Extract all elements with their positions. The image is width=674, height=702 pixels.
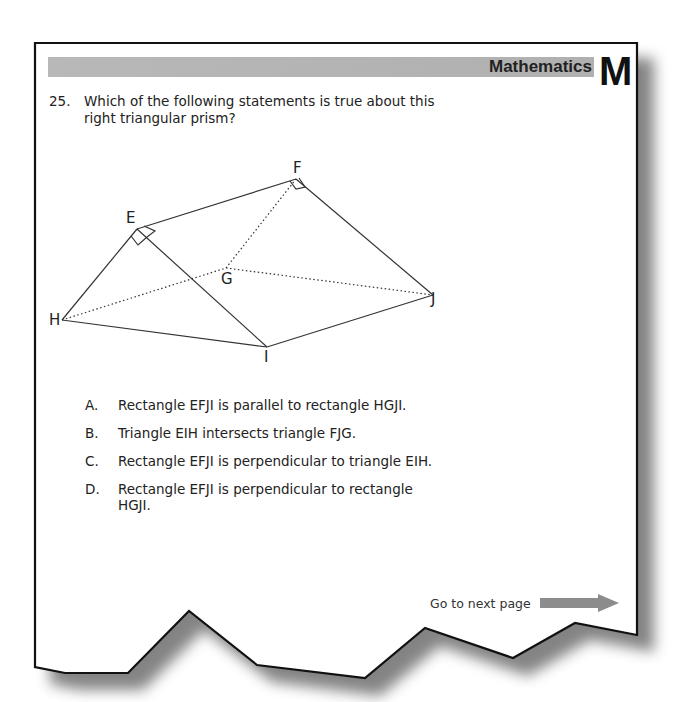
go-to-next-page-link[interactable]: Go to next page [430,596,531,611]
vertex-label-I: I [264,348,268,366]
option-a-letter: A. [85,397,98,413]
option-b-text: Triangle EIH intersects triangle FJG. [118,425,356,441]
section-letter: M [599,51,632,91]
worksheet-page: Mathematics M 25. Which of the following… [0,0,674,702]
vertex-label-J: J [431,290,435,308]
option-d-text-line-2: HGJI. [118,497,151,513]
vertex-label-G: G [221,270,233,288]
vertex-label-H: H [49,311,60,329]
option-d-letter: D. [85,481,100,497]
question-number: 25. [49,93,70,109]
option-c-text: Rectangle EFJI is perpendicular to trian… [118,453,432,469]
question-text-line-2: right triangular prism? [84,110,236,126]
subject-title: Mathematics [489,57,592,77]
option-c-letter: C. [85,453,99,469]
page-body [35,43,637,678]
option-a-text: Rectangle EFJI is parallel to rectangle … [118,397,406,413]
option-d-text-line-1: Rectangle EFJI is perpendicular to recta… [118,481,413,497]
question-text-line-1: Which of the following statements is tru… [84,93,434,109]
vertex-label-E: E [126,209,135,227]
vertex-label-F: F [293,159,302,177]
option-b-letter: B. [85,425,99,441]
